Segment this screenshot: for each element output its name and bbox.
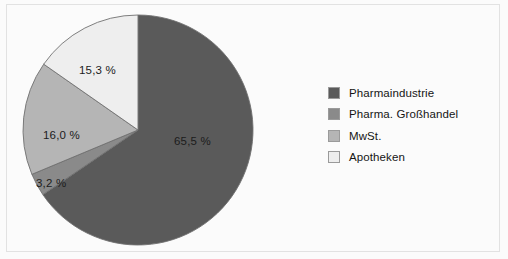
legend-label-grosshandel: Pharma. Großhandel <box>349 108 458 120</box>
legend-swatch-icon-pharmaindustrie <box>328 87 340 99</box>
legend-swatch-icon-grosshandel <box>328 108 340 120</box>
slice-value-label-grosshandel: 3,2 % <box>36 177 66 189</box>
legend-item-pharmaindustrie: Pharmaindustrie <box>328 82 493 104</box>
chart-legend: Pharmaindustrie Pharma. Großhandel MwSt.… <box>328 82 493 168</box>
legend-item-apotheken: Apotheken <box>328 147 493 169</box>
legend-item-grosshandel: Pharma. Großhandel <box>328 104 493 126</box>
legend-label-apotheken: Apotheken <box>349 151 405 163</box>
slice-value-label-apotheken: 15,3 % <box>79 64 116 76</box>
legend-swatch-icon-mwst <box>328 130 340 142</box>
legend-label-mwst: MwSt. <box>349 130 381 142</box>
slice-value-label-pharmaindustrie: 65,5 % <box>174 135 211 147</box>
legend-swatch-icon-apotheken <box>328 151 340 163</box>
legend-item-mwst: MwSt. <box>328 125 493 147</box>
pie-chart-figure: 65,5 % 3,2 % 16,0 % 15,3 % Pharmaindustr… <box>0 0 508 259</box>
pie-plot-area: 65,5 % 3,2 % 16,0 % 15,3 % <box>22 14 262 246</box>
slice-value-label-mwst: 16,0 % <box>43 129 80 141</box>
legend-label-pharmaindustrie: Pharmaindustrie <box>349 87 434 99</box>
